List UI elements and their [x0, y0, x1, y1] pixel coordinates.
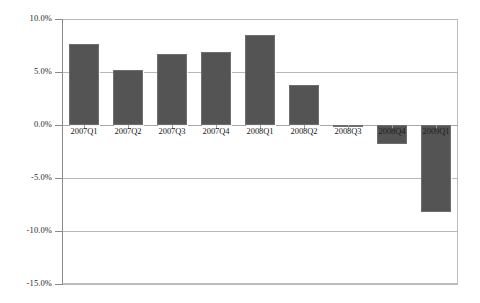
y-axis-label: 5.0%: [0, 66, 52, 76]
y-axis-label: -10.0%: [0, 225, 52, 235]
gridline: [62, 284, 458, 285]
bar: [69, 44, 99, 125]
bar: [289, 85, 319, 125]
bars-group: [62, 19, 458, 284]
y-axis-label: 0.0%: [0, 119, 52, 129]
y-axis-tick: [55, 284, 63, 285]
bar: [157, 54, 187, 125]
y-axis-label: -15.0%: [0, 278, 52, 288]
bar: [377, 125, 407, 144]
bar: [113, 70, 143, 125]
bar-chart: 10.0%5.0%0.0%-5.0%-10.0%-15.0% 2007Q1200…: [0, 0, 480, 303]
bar: [201, 52, 231, 125]
bar: [245, 35, 275, 125]
y-axis-label: 10.0%: [0, 13, 52, 23]
bar: [421, 125, 451, 212]
bar: [333, 125, 363, 127]
y-axis-label: -5.0%: [0, 172, 52, 182]
